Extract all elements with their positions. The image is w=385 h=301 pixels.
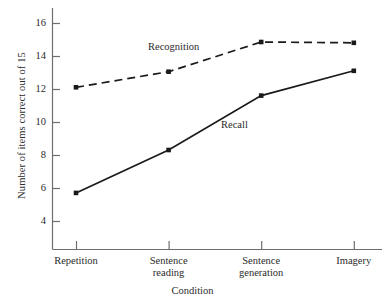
series-label-recall: Recall bbox=[221, 119, 248, 130]
axes-group bbox=[53, 8, 383, 250]
x-axis-tick-marks bbox=[77, 241, 355, 250]
series-label-recognition: Recognition bbox=[148, 41, 199, 52]
x-tick-label-line: generation bbox=[201, 267, 321, 279]
x-tick-label: Imagery bbox=[294, 255, 385, 267]
data-point-marker bbox=[74, 85, 79, 90]
chart-figure: Number of items correct out of 15 468101… bbox=[0, 0, 385, 301]
x-tick-label-line: Imagery bbox=[294, 255, 385, 267]
data-point-marker bbox=[352, 41, 357, 46]
y-axis-tick-marks bbox=[53, 24, 61, 222]
data-point-marker bbox=[259, 40, 264, 45]
series-line bbox=[76, 42, 354, 87]
data-point-marker bbox=[74, 191, 79, 196]
x-axis-title: Condition bbox=[0, 285, 385, 296]
data-point-marker bbox=[352, 69, 357, 74]
series-line bbox=[76, 71, 354, 193]
series-recall bbox=[74, 69, 356, 196]
data-point-marker bbox=[166, 148, 171, 153]
data-point-marker bbox=[166, 69, 171, 74]
data-point-marker bbox=[259, 93, 264, 98]
